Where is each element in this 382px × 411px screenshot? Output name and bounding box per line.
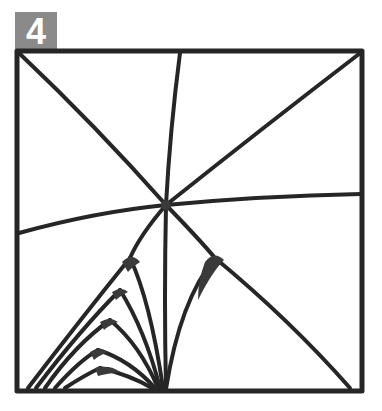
line-to-top-right-corner [166, 54, 359, 205]
diagram-canvas [0, 0, 382, 411]
radial-lines [19, 53, 361, 389]
line-to-left-branch [130, 205, 166, 258]
line-to-right-edge [166, 194, 361, 205]
line-to-bottom-center [165, 205, 166, 389]
line-to-top-left-corner [20, 54, 166, 205]
line-to-top-edge [166, 53, 180, 205]
line-to-left-edge [19, 205, 166, 233]
